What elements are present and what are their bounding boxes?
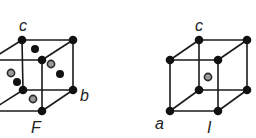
edge: [218, 90, 247, 111]
edge: [22, 40, 23, 90]
face-center-atom: [31, 45, 39, 53]
face-center-atom: [29, 95, 36, 102]
corner-atom: [38, 56, 47, 65]
corner-atom: [166, 56, 175, 65]
axis-label-b: b: [80, 87, 89, 104]
face-center-atom: [56, 70, 64, 78]
lattice-type-label: F: [31, 119, 42, 136]
edge: [218, 40, 247, 60]
face-center-atom: [47, 60, 54, 67]
edge: [0, 40, 22, 60]
edge: [170, 40, 199, 60]
edge: [170, 90, 199, 111]
face-center-atom: [13, 78, 21, 86]
corner-atom: [243, 36, 252, 45]
axis-label-c: c: [195, 17, 203, 34]
corner-atom: [214, 107, 223, 116]
axis-label-c: c: [19, 17, 27, 34]
edge: [42, 90, 73, 111]
corner-atom: [19, 86, 28, 95]
lattice-type-label: I: [207, 119, 212, 136]
edge: [0, 90, 23, 111]
corner-atom: [195, 36, 204, 45]
body-centered-cell: c a I: [155, 17, 251, 136]
body-center-atom: [204, 73, 211, 80]
corner-atom: [69, 36, 78, 45]
corner-atom: [195, 86, 204, 95]
corner-atom: [18, 36, 27, 45]
corner-atom: [166, 107, 175, 116]
axis-label-a: a: [155, 115, 164, 132]
lattice-diagram: c b F: [0, 0, 256, 138]
corner-atom: [243, 86, 252, 95]
face-center-atom: [7, 69, 14, 76]
corner-atoms: [18, 36, 78, 116]
face-centered-cell: c b F: [0, 17, 89, 136]
corner-atom: [38, 107, 47, 116]
corner-atom: [69, 86, 78, 95]
edge: [42, 40, 73, 60]
corner-atom: [214, 56, 223, 65]
